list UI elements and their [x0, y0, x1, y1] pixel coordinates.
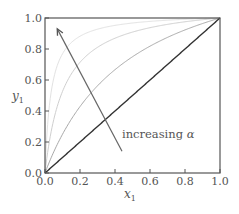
vle-chart: 0.00.20.40.60.81.0 0.00.20.40.60.81.0 x1… [0, 0, 239, 214]
x-tick-label: 0.8 [176, 175, 194, 188]
y-axis-label: y1 [11, 89, 24, 105]
y-tick-label: 0.6 [25, 74, 43, 87]
y-tick-label: 0.0 [25, 167, 43, 180]
annotation-label: increasing α [122, 127, 195, 141]
x-tick-label: 0.6 [141, 175, 159, 188]
y-tick-label: 0.4 [25, 105, 43, 118]
y-tick-label: 1.0 [25, 12, 43, 25]
x-tick-label: 1.0 [211, 175, 229, 188]
curve-alpha-1 [45, 18, 220, 173]
x-axis-ticks: 0.00.20.40.60.81.0 [36, 169, 229, 188]
y-tick-label: 0.2 [25, 136, 43, 149]
curves [45, 18, 220, 173]
x-axis-label: x1 [124, 187, 136, 203]
x-tick-label: 0.2 [71, 175, 89, 188]
y-tick-label: 0.8 [25, 43, 43, 56]
x-tick-label: 0.4 [106, 175, 124, 188]
